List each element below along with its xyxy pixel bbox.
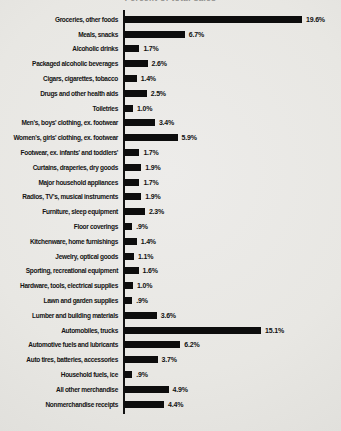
value-label: 15.1%: [265, 327, 284, 334]
chart-row: Cigars, cigarettes, tobacco 1.4%: [0, 71, 341, 86]
category-label: Lumber and building materials: [0, 312, 124, 319]
chart-row: Meals, snacks 6.7%: [0, 27, 341, 42]
bar: [124, 238, 137, 245]
bar: [124, 371, 132, 378]
chart-row: Jewelry, optical goods 1.1%: [0, 249, 341, 264]
chart-row: Auto tires, batteries, accessories 3.7%: [0, 352, 341, 367]
chart-row: Major household appliances 1.7%: [0, 175, 341, 190]
value-label: 1.0%: [137, 282, 152, 289]
bar: [124, 75, 137, 82]
category-label: Nonmerchandise receipts: [0, 401, 124, 408]
value-label: 4.4%: [168, 401, 183, 408]
bar: [124, 297, 132, 304]
chart-rows: Groceries, other foods 19.6% Meals, snac…: [0, 12, 341, 412]
category-label: Men's, boys' clothing, ex. footwear: [0, 119, 124, 126]
category-label: All other merchandise: [0, 386, 124, 393]
bar: [124, 208, 145, 215]
category-label: Packaged alcoholic beverages: [0, 60, 124, 67]
value-label: 1.9%: [145, 164, 160, 171]
value-label: 6.2%: [184, 341, 199, 348]
chart-row: Footwear, ex. infants' and toddlers' 1.7…: [0, 145, 341, 160]
category-label: Automotive fuels and lubricants: [0, 341, 124, 348]
bar: [124, 312, 157, 319]
value-label: 1.7%: [143, 149, 158, 156]
chart-row: Automotive fuels and lubricants 6.2%: [0, 338, 341, 353]
bar: [124, 282, 133, 289]
category-label: Automobiles, trucks: [0, 327, 124, 334]
category-label: Meals, snacks: [0, 31, 124, 38]
category-label: Sporting, recreational equipment: [0, 267, 124, 274]
bar: [124, 356, 158, 363]
value-label: 1.4%: [141, 238, 156, 245]
chart-row: Groceries, other foods 19.6%: [0, 12, 341, 27]
value-label: .9%: [136, 371, 147, 378]
bar: [124, 16, 302, 23]
bar: [124, 31, 185, 38]
bar: [124, 267, 139, 274]
chart-row: Curtains, draperies, dry goods 1.9%: [0, 160, 341, 175]
value-label: 6.7%: [189, 31, 204, 38]
chart-row: Automobiles, trucks 15.1%: [0, 323, 341, 338]
category-label: Major household appliances: [0, 179, 124, 186]
value-label: 1.1%: [138, 253, 153, 260]
value-label: 2.3%: [149, 208, 164, 215]
bar: [124, 134, 178, 141]
value-label: 3.7%: [162, 356, 177, 363]
bar: [124, 119, 155, 126]
chart-row: Toiletries 1.0%: [0, 101, 341, 116]
category-label: Hardware, tools, electrical supplies: [0, 282, 124, 289]
bar: [124, 193, 141, 200]
chart-row: Radios, TV's, musical instruments 1.9%: [0, 190, 341, 205]
bar: [124, 341, 180, 348]
chart-row: Packaged alcoholic beverages 2.6%: [0, 56, 341, 71]
chart-row: Floor coverings .9%: [0, 219, 341, 234]
value-label: 1.7%: [143, 179, 158, 186]
chart-row: Women's, girls' clothing, ex. footwear 5…: [0, 130, 341, 145]
value-label: 1.0%: [137, 105, 152, 112]
bar: [124, 179, 139, 186]
bar: [124, 327, 261, 334]
category-label: Household fuels, ice: [0, 371, 124, 378]
category-label: Drugs and other health aids: [0, 90, 124, 97]
bar: [124, 223, 132, 230]
chart-row: All other merchandise 4.9%: [0, 382, 341, 397]
chart-title-clipped: Percent of total sales: [0, 0, 341, 4]
chart-row: Nonmerchandise receipts 4.4%: [0, 397, 341, 412]
category-label: Women's, girls' clothing, ex. footwear: [0, 134, 124, 141]
bar: [124, 149, 139, 156]
chart-page: Percent of total sales Groceries, other …: [0, 0, 341, 431]
category-label: Toiletries: [0, 105, 124, 112]
value-label: 3.4%: [159, 119, 174, 126]
category-label: Curtains, draperies, dry goods: [0, 164, 124, 171]
chart-row: Alcoholic drinks 1.7%: [0, 42, 341, 57]
bar: [124, 45, 139, 52]
bar: [124, 386, 169, 393]
value-label: 5.9%: [182, 134, 197, 141]
chart-row: Lawn and garden supplies .9%: [0, 293, 341, 308]
value-label: 4.9%: [173, 386, 188, 393]
value-label: 1.6%: [143, 267, 158, 274]
category-label: Lawn and garden supplies: [0, 297, 124, 304]
value-label: 2.5%: [151, 90, 166, 97]
value-label: .9%: [136, 223, 147, 230]
value-label: 2.6%: [152, 60, 167, 67]
bar: [124, 164, 141, 171]
chart-row: Sporting, recreational equipment 1.6%: [0, 264, 341, 279]
category-label: Cigars, cigarettes, tobacco: [0, 75, 124, 82]
chart-row: Drugs and other health aids 2.5%: [0, 86, 341, 101]
category-label: Radios, TV's, musical instruments: [0, 193, 124, 200]
value-label: 3.6%: [161, 312, 176, 319]
category-label: Groceries, other foods: [0, 16, 124, 23]
chart-row: Furniture, sleep equipment 2.3%: [0, 204, 341, 219]
bar: [124, 90, 147, 97]
category-label: Kitchenware, home furnishings: [0, 238, 124, 245]
chart-row: Men's, boys' clothing, ex. footwear 3.4%: [0, 116, 341, 131]
chart-row: Lumber and building materials 3.6%: [0, 308, 341, 323]
chart-row: Hardware, tools, electrical supplies 1.0…: [0, 278, 341, 293]
bar: [124, 105, 133, 112]
bar: [124, 401, 164, 408]
value-label: 1.7%: [143, 45, 158, 52]
chart-row: Kitchenware, home furnishings 1.4%: [0, 234, 341, 249]
value-label: .9%: [136, 297, 147, 304]
value-label: 1.4%: [141, 75, 156, 82]
